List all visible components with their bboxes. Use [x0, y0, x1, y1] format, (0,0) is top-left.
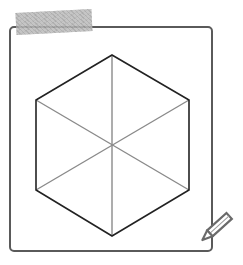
tape-strip	[15, 9, 92, 35]
pencil-icon	[200, 213, 232, 243]
hexagon-diagram	[0, 0, 243, 265]
hexagon-diagonals	[36, 55, 189, 236]
